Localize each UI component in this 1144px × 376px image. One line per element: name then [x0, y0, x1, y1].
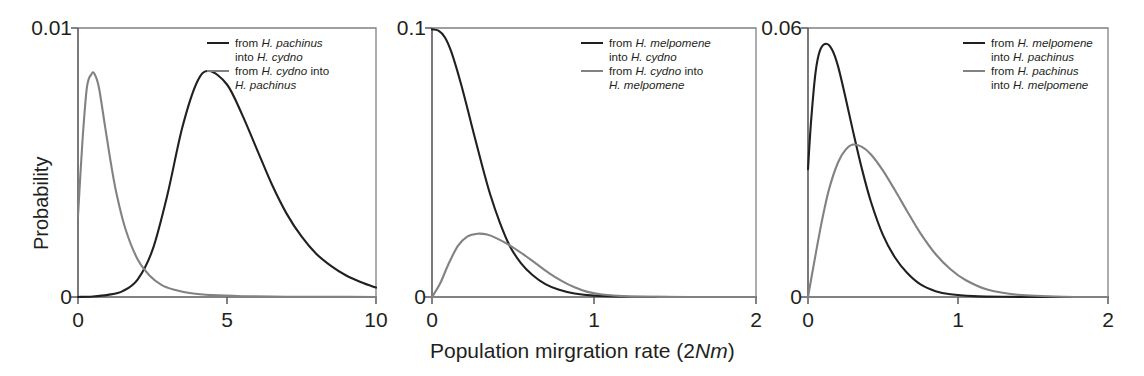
legend-label-gray: from H. cydno into H. pachinus — [235, 64, 329, 91]
x-tick-label: 0 — [802, 308, 814, 331]
legend-item-black[interactable]: from H. pachinus into H. cydno — [207, 36, 329, 63]
panel-b: 00.1012 from H. melpomene into H. cydno … — [380, 0, 780, 376]
legend-line-swatch-gray — [581, 64, 603, 78]
legend-item-black[interactable]: from H. melpomene into H. cydno — [581, 36, 711, 63]
y-axis-label: Probability — [30, 157, 53, 250]
panel-b-legend: from H. melpomene into H. cydno from H. … — [581, 36, 711, 92]
legend-item-black[interactable]: from H. melpomene into H. pachinus — [963, 36, 1093, 63]
x-tick-label: 1 — [952, 308, 964, 331]
legend-item-gray[interactable]: from H. cydno into H. melpomene — [581, 64, 711, 91]
legend-line-swatch-black — [963, 36, 985, 50]
x-tick-label: 1 — [588, 308, 600, 331]
y-tick-label: 0.06 — [761, 16, 802, 39]
x-tick-label: 0 — [72, 308, 84, 331]
x-tick-label: 2 — [1102, 308, 1114, 331]
panel-a-plot: 00.010510 — [0, 0, 400, 376]
legend-label-black: from H. melpomene into H. pachinus — [991, 36, 1093, 63]
x-tick-label: 5 — [221, 308, 233, 331]
y-tick-label: 0 — [790, 285, 802, 308]
legend-label-black: from H. melpomene into H. cydno — [609, 36, 711, 63]
panel-a-legend: from H. pachinus into H. cydno from H. c… — [207, 36, 329, 92]
legend-item-gray[interactable]: from H. pachinus into H. melpomene — [963, 64, 1093, 91]
legend-line-swatch-black — [207, 36, 229, 50]
legend-line-swatch-black — [581, 36, 603, 50]
y-tick-label: 0 — [60, 285, 72, 308]
legend-item-gray[interactable]: from H. cydno into H. pachinus — [207, 64, 329, 91]
panel-a: 00.010510 Probability from H. pachinus i… — [0, 0, 400, 376]
legend-line-swatch-gray — [963, 64, 985, 78]
y-axis-label-text: Probability — [30, 157, 52, 250]
legend-label-gray: from H. pachinus into H. melpomene — [991, 64, 1088, 91]
y-tick-label: 0 — [414, 285, 426, 308]
panel-b-plot: 00.1012 — [380, 0, 780, 376]
x-axis-label: Population mirgration rate (2Nm) — [430, 339, 735, 363]
migration-rate-figure: 00.010510 Probability from H. pachinus i… — [0, 0, 1144, 376]
panel-c: 00.06012 from H. melpomene into H. pachi… — [756, 0, 1144, 376]
y-tick-label: 0.01 — [31, 16, 72, 39]
panel-c-legend: from H. melpomene into H. pachinus from … — [963, 36, 1093, 92]
legend-label-black: from H. pachinus into H. cydno — [235, 36, 323, 63]
x-tick-label: 0 — [426, 308, 438, 331]
legend-line-swatch-gray — [207, 64, 229, 78]
y-tick-label: 0.1 — [397, 16, 426, 39]
legend-label-gray: from H. cydno into H. melpomene — [609, 64, 703, 91]
